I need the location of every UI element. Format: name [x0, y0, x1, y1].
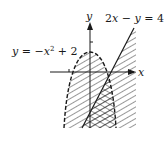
- parabola-label-plus: +: [58, 45, 67, 58]
- parabola-label-neg: −: [34, 45, 43, 58]
- parabola-label: y = −x2 + 2: [12, 46, 78, 57]
- line-label: 2x − y = 4: [105, 13, 164, 24]
- line-label-eq: =: [144, 12, 153, 25]
- line-label-minus: −: [122, 12, 131, 25]
- line-label-c: 4: [157, 12, 164, 25]
- parabola-label-exp: 2: [50, 45, 54, 53]
- line-label-x: x: [112, 12, 118, 25]
- x-axis-label: x: [138, 67, 144, 78]
- parabola-label-y: y: [12, 45, 18, 58]
- line-label-y: y: [134, 12, 140, 25]
- line-label-a: 2: [105, 12, 112, 25]
- y-axis-label: y: [86, 11, 92, 22]
- parabola-label-const: 2: [71, 45, 78, 58]
- parabola-label-eq: =: [22, 45, 31, 58]
